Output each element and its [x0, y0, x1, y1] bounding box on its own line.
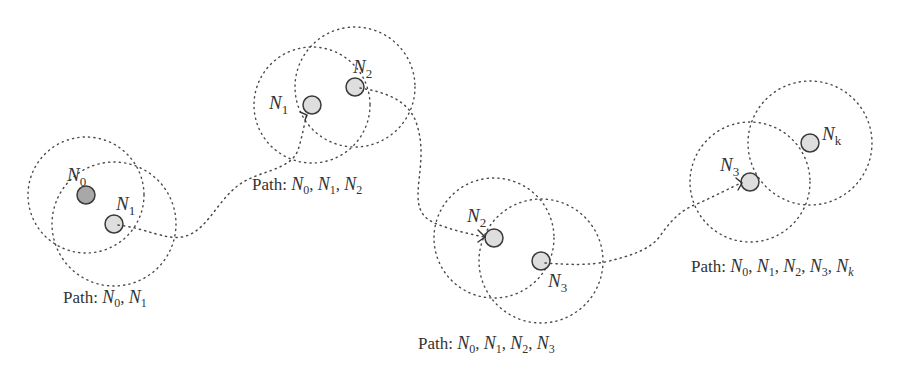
node-label-n2: N2	[352, 56, 372, 81]
stage-0: N0 N1 Path: N0, N1	[28, 137, 176, 310]
node-n2	[346, 78, 364, 96]
route-links	[118, 88, 742, 264]
node-n3	[532, 252, 550, 270]
route-stage1-to-stage2	[360, 88, 484, 237]
route-stage2-to-stage3	[545, 183, 741, 264]
node-n3	[741, 173, 759, 191]
node-nk-destination	[801, 134, 819, 152]
arrow-head-icon	[300, 112, 307, 120]
node-label-n3: N3	[547, 270, 567, 295]
stage-1: N1 N2 Path: N0, N1, N2	[252, 27, 415, 197]
stage-2: N2 N3 Path: N0, N1, N2, N3	[418, 178, 603, 356]
arrow-head-icon	[478, 230, 485, 242]
node-label-n1: N1	[115, 193, 135, 218]
node-label-nk: Nk	[821, 123, 842, 148]
node-label-n1: N1	[268, 92, 288, 117]
node-n1	[303, 96, 321, 114]
node-label-n3: N3	[719, 154, 739, 179]
path-caption-stage-0: Path: N0, N1	[63, 287, 147, 310]
node-n2	[485, 229, 503, 247]
path-caption-stage-1: Path: N0, N1, N2	[252, 174, 362, 197]
node-n1	[105, 215, 123, 233]
node-label-n0: N0	[66, 164, 86, 189]
path-caption-stage-2: Path: N0, N1, N2, N3	[418, 333, 555, 356]
path-caption-stage-3: Path: N0, N1, N2, N3, Nk	[691, 256, 854, 279]
stage-3: N3 Nk Path: N0, N1, N2, N3, Nk	[690, 81, 872, 279]
path-discovery-diagram: N0 N1 Path: N0, N1 N1 N2 Path: N0, N1, N…	[0, 0, 922, 370]
node-label-n2: N2	[466, 205, 486, 230]
